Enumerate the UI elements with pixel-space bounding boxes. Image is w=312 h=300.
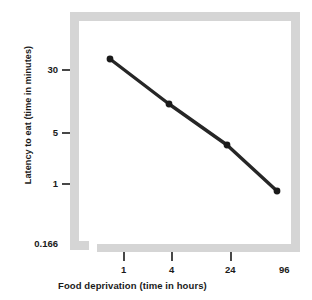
y-axis-title: Latency to eat (time in minutes) [23, 35, 33, 195]
y-tick-label-0166: 0.166 [12, 238, 58, 249]
series-line [110, 59, 277, 191]
chart-figure: 30 5 1 0.166 1 4 24 96 Latency to eat (t… [0, 0, 312, 300]
data-point [224, 142, 231, 149]
plot-frame [70, 12, 300, 252]
data-series-latency-to-eat [107, 56, 281, 195]
x-tick-label-24: 24 [225, 264, 236, 275]
x-tick-label-4: 4 [169, 264, 174, 275]
x-tick-label-1: 1 [121, 264, 126, 275]
x-tick-label-96: 96 [279, 264, 290, 275]
x-axis-title: Food deprivation (time in hours) [58, 280, 207, 291]
data-point [107, 56, 114, 63]
data-point [274, 188, 281, 195]
y-axis-ticks [62, 70, 70, 184]
x-axis-ticks [124, 252, 231, 261]
chart-plot-area [0, 0, 312, 300]
data-point [166, 101, 173, 108]
